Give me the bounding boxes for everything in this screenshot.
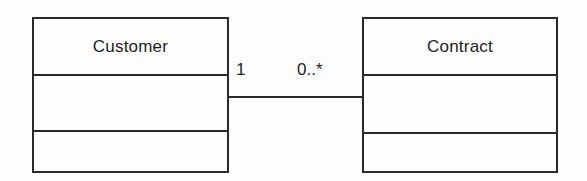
class-name-compartment-customer: Customer <box>34 19 227 76</box>
association-line <box>227 96 364 98</box>
source-multiplicity-label: 1 <box>236 61 245 78</box>
class-operations-compartment-contract <box>364 134 556 171</box>
class-attributes-compartment-customer <box>34 76 227 132</box>
class-box-customer[interactable]: Customer <box>32 17 229 173</box>
class-box-contract[interactable]: Contract <box>362 17 558 173</box>
class-name-compartment-contract: Contract <box>364 19 556 76</box>
target-multiplicity-label: 0..* <box>297 61 323 78</box>
class-attributes-compartment-contract <box>364 76 556 134</box>
class-name-label-contract: Contract <box>427 38 493 55</box>
uml-class-diagram: Customer 1 0..* Contract <box>0 0 587 181</box>
class-name-label-customer: Customer <box>93 38 168 55</box>
class-operations-compartment-customer <box>34 132 227 171</box>
